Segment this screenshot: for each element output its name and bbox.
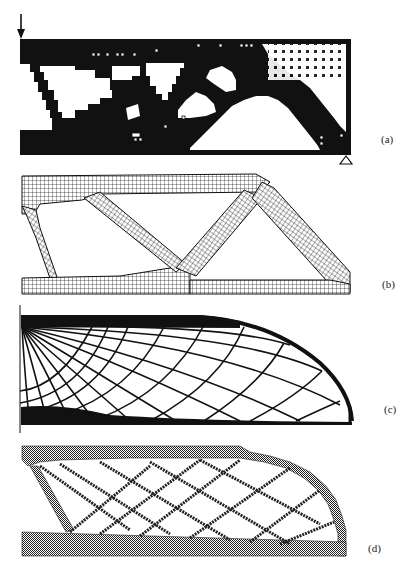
panel-b-graphic [0, 168, 415, 303]
panel-label-c: (c) [384, 403, 396, 415]
bottom-chord [21, 406, 352, 425]
brace-members [40, 460, 334, 544]
fe-mesh [22, 174, 350, 294]
panel-label-a: (a) [381, 133, 393, 145]
load-arrow-icon [17, 14, 25, 39]
panel-label-d: (d) [368, 542, 381, 554]
michell-radial-members [22, 326, 340, 421]
panel-c: (c) [0, 303, 415, 438]
panel-d: (d) [0, 438, 415, 568]
michell-circular-members [20, 325, 340, 421]
panel-label-b: (b) [382, 278, 395, 290]
panel-b: (b) [0, 168, 415, 303]
speckle-texture [268, 44, 344, 80]
panel-d-graphic [0, 438, 415, 568]
panel-a-graphic [0, 0, 415, 168]
panel-c-graphic [0, 303, 415, 438]
panel-a: (a) [0, 0, 415, 168]
pixel-topology [22, 446, 346, 556]
support-triangle-icon [340, 156, 352, 164]
